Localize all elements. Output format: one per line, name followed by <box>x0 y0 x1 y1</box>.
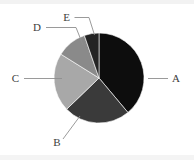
leader-line-b <box>63 116 80 139</box>
pie-label-b: B <box>53 136 60 148</box>
pie-label-d: D <box>33 21 41 33</box>
pie-label-a: A <box>172 72 180 84</box>
pie-slice-group <box>54 33 144 123</box>
pie-chart-figure: A B C D E <box>0 0 194 160</box>
pie-label-c: C <box>12 72 19 84</box>
pie-chart-svg: A B C D E <box>0 0 194 160</box>
bottom-margin-band <box>0 155 194 160</box>
pie-label-e: E <box>63 11 70 23</box>
